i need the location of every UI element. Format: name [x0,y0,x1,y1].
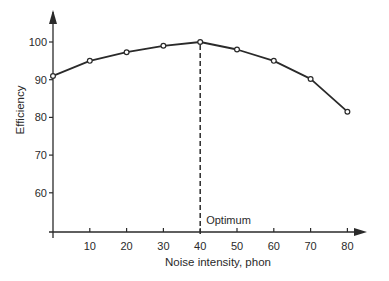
x-tick-label: 20 [120,240,132,252]
data-point-marker [87,58,92,63]
data-point-marker [124,50,129,55]
optimum-label: Optimum [206,214,251,226]
y-tick-label: 60 [35,187,47,199]
x-tick-label: 50 [231,240,243,252]
y-tick-label: 90 [35,74,47,86]
data-point-marker [235,47,240,52]
y-axis-title: Efficiency [14,85,26,134]
x-tick-label: 30 [157,240,169,252]
data-point-marker [345,109,350,114]
axes: 607080901001020304050607080 [29,10,367,252]
data-point-marker [308,77,313,82]
data-point-marker [198,40,203,45]
data-point-marker [51,74,56,79]
x-tick-label: 40 [194,240,206,252]
optimum-annotation: Optimum [200,45,251,236]
y-tick-label: 100 [29,36,47,48]
data-point-marker [271,58,276,63]
x-axis-arrow-icon [354,228,367,236]
x-tick-label: 70 [304,240,316,252]
y-tick-label: 70 [35,149,47,161]
x-tick-label: 80 [341,240,353,252]
x-axis-title: Noise intensity, phon [165,256,271,268]
x-tick-label: 10 [84,240,96,252]
y-tick-label: 80 [35,111,47,123]
efficiency-noise-chart: 607080901001020304050607080 Optimum Nois… [0,0,389,281]
x-tick-label: 60 [268,240,280,252]
y-axis-arrow-icon [49,10,57,24]
data-point-marker [161,43,166,48]
